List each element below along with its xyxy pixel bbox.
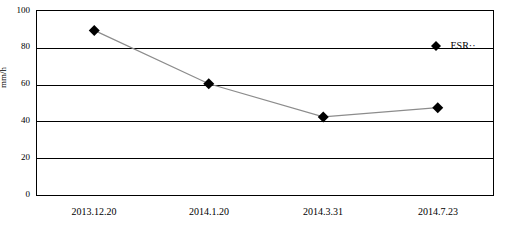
x-tick-label-1: 2013.12.20 <box>44 206 144 217</box>
data-point-2 <box>203 78 214 89</box>
x-tick-label-4: 2014.7.23 <box>388 206 488 217</box>
series-line <box>94 30 438 116</box>
legend: ESR·· <box>430 39 476 52</box>
legend-marker-diamond-icon <box>430 40 442 52</box>
chart-container: mm/h 100 80 60 40 20 0 ESR·· 2013.12.20 … <box>0 0 506 233</box>
series-esr <box>0 0 506 233</box>
x-tick-label-3: 2014.3.31 <box>273 206 373 217</box>
data-point-1 <box>89 25 100 36</box>
legend-label-esr: ESR·· <box>451 40 476 51</box>
data-point-3 <box>318 111 329 122</box>
data-point-markers <box>89 25 444 122</box>
data-point-4 <box>432 102 443 113</box>
x-tick-label-2: 2014.1.20 <box>159 206 259 217</box>
